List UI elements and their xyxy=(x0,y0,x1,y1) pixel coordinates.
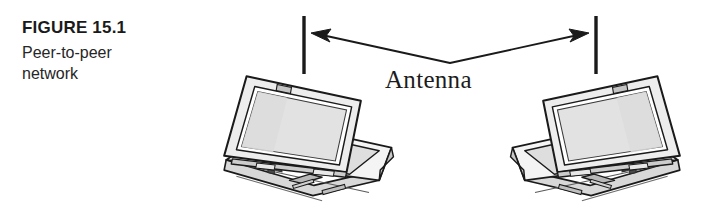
antenna-label: Antenna xyxy=(385,66,472,94)
laptop-left xyxy=(224,76,393,200)
wireless-link-arrow xyxy=(311,29,589,63)
figure-15-1: FIGURE 15.1 Peer-to-peer network xyxy=(0,0,704,215)
diagram-illustration xyxy=(0,0,704,215)
laptop-right xyxy=(511,76,680,200)
